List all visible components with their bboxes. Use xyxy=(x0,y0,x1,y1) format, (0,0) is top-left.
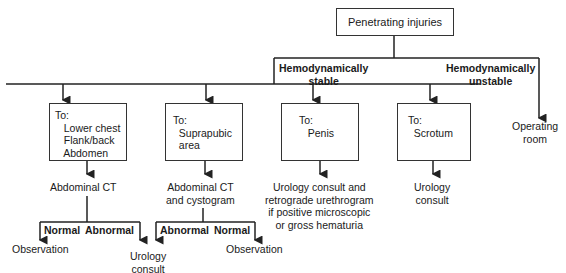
site-box-lower-chest: To: Lower chest Flank/back Abdomen xyxy=(49,103,127,161)
operating-room: Operating room xyxy=(512,120,558,145)
site-box-scrotum: To: Scrotum xyxy=(397,103,471,161)
urology-retrograde: Urology consult and retrograde urethrogr… xyxy=(265,181,374,231)
ct1-urology-consult: Urology consult xyxy=(130,250,166,273)
ct1-observation: Observation xyxy=(12,243,69,256)
site-label: To: Scrotum xyxy=(408,114,453,139)
ct1-abnormal: Abnormal xyxy=(85,224,134,237)
site-label: To: Penis xyxy=(299,114,334,139)
site-label: To: Lower chest Flank/back Abdomen xyxy=(55,109,120,159)
site-box-suprapubic: To: Suprapubic area xyxy=(165,103,243,161)
ct2-observation: Observation xyxy=(226,243,283,256)
branch-unstable: Hemodynamically unstable xyxy=(446,62,535,87)
root-node: Penetrating injuries xyxy=(336,8,454,36)
abdominal-ct: Abdominal CT xyxy=(50,181,117,194)
urology-consult-scrotum: Urology consult xyxy=(414,181,450,206)
ct2-normal: Normal xyxy=(214,224,250,237)
root-label: Penetrating injuries xyxy=(337,16,453,29)
site-label: To: Suprapubic area xyxy=(173,114,232,152)
abdominal-ct-cystogram: Abdominal CT and cystogram xyxy=(166,181,235,206)
ct1-normal: Normal xyxy=(44,224,80,237)
site-box-penis: To: Penis xyxy=(281,103,359,161)
branch-stable: Hemodynamically stable xyxy=(279,62,368,87)
ct2-abnormal: Abnormal xyxy=(160,224,209,237)
